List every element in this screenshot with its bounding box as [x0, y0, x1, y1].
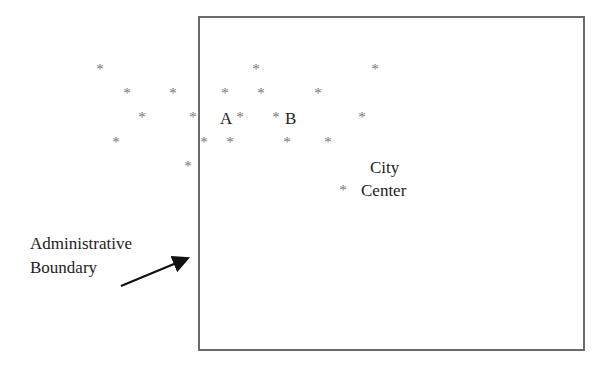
diagram-canvas: ******************** A B City Center Adm…	[0, 0, 608, 369]
arrow-icon	[0, 0, 608, 369]
